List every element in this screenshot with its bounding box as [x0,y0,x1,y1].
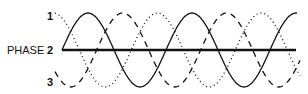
three-phase-waveform [0,0,308,94]
